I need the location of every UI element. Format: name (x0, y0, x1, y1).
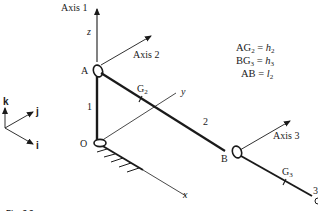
i-label: i (36, 140, 39, 151)
y-label: y (180, 86, 186, 97)
g2-label: G2 (137, 83, 148, 96)
point-a-label: A (81, 65, 89, 76)
j-label: j (35, 106, 39, 117)
axis-2: Axis 2 (101, 36, 159, 65)
k-label: k (3, 96, 9, 107)
point-o-label: O (80, 138, 87, 149)
link-3-label: 3 (313, 185, 318, 196)
link-2: G2 2 (101, 73, 225, 151)
base-o: x O (80, 138, 188, 200)
equation-ab: AB = l2 (241, 68, 274, 81)
manipulator-diagram: Axis 1 z 1 Axis 2 A G2 2 y x O (0, 0, 318, 211)
link-1-label: 1 (87, 101, 92, 112)
axis-1-label: Axis 1 (61, 2, 87, 13)
equation-bg3: BG3 = h3 (236, 55, 275, 68)
joint-a: A (81, 64, 104, 78)
link-2-label: 2 (203, 116, 208, 127)
link-1: 1 (87, 70, 97, 141)
axis-1: Axis 1 z (61, 2, 97, 62)
z-label: z (86, 26, 91, 37)
g3-label: G3 (282, 166, 293, 179)
axis-3-label: Axis 3 (273, 130, 299, 141)
x-label: x (182, 189, 188, 200)
figure-caption: Fig. 3.3 (6, 208, 34, 211)
equation-ag2: AG2 = h2 (236, 42, 275, 55)
axis-2-label: Axis 2 (133, 49, 159, 60)
equations: AG2 = h2 BG3 = h3 AB = l2 (236, 42, 275, 81)
joint-b: Axis 3 B (221, 121, 299, 164)
link-3: G3 3 (241, 156, 318, 204)
unit-vector-frame: k j i (3, 96, 39, 151)
point-b-label: B (221, 153, 228, 164)
